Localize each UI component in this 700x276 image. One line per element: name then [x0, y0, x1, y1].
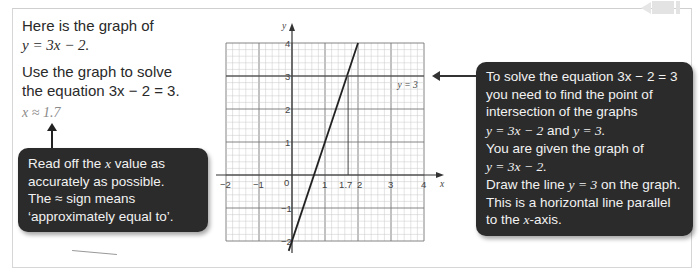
- intro-line4: the equation: [22, 82, 109, 99]
- hint-callout-right: To solve the equation 3x − 2 = 3 you nee…: [476, 62, 693, 236]
- arrow-up-icon: [51, 127, 53, 149]
- intro-line3: Use the graph to solve: [22, 63, 172, 80]
- y-tick-label: 2: [285, 104, 290, 115]
- y-tick-label: −1: [281, 203, 292, 214]
- x-axis-label: x: [439, 179, 445, 189]
- x-tick-label: 2: [357, 179, 362, 190]
- hint-callout-left: Read off the x value as accurately as po…: [18, 148, 208, 232]
- callout-equation: y = 3.: [573, 123, 605, 138]
- y-tick-label: 1: [285, 137, 290, 148]
- line-graph: xy−2−101234−2−11234y = 31.7: [200, 20, 450, 270]
- intro-equation-2: 3x − 2 = 3.: [109, 82, 180, 99]
- callout-text: The ≈ sign means: [28, 191, 135, 206]
- x-reading-label: 1.7: [339, 179, 352, 190]
- callout-text: value as: [111, 156, 165, 171]
- y-axis-label: y: [281, 21, 287, 31]
- y-equals-3-label: y = 3: [397, 80, 418, 90]
- callout-text: accurately as possible.: [28, 174, 165, 189]
- callout-text: -axis.: [530, 212, 562, 227]
- callout-equation: y = 3: [569, 177, 598, 192]
- callout-equation: 3x − 2 = 3: [617, 69, 677, 84]
- y-axis-arrow-icon: [289, 23, 295, 31]
- x-tick-label: 1: [322, 179, 327, 190]
- x-axis-arrow-icon: [436, 172, 444, 178]
- question-text: Here is the graph of y = 3x − 2. Use the…: [22, 16, 212, 107]
- y-tick-label: 4: [285, 38, 290, 49]
- callout-text: Read off the: [28, 156, 105, 171]
- callout-text: you need to find the point of intersecti…: [486, 87, 653, 120]
- intro-line1: Here is the graph of: [22, 17, 154, 34]
- x-tick-label: 3: [388, 179, 393, 190]
- handwritten-answer: x ≈ 1.7: [22, 105, 60, 121]
- callout-text: You are given the graph of: [486, 141, 644, 156]
- x-tick-label: −1: [253, 179, 264, 190]
- callout-text: and: [543, 123, 573, 138]
- x-tick-label: 4: [421, 179, 426, 190]
- tab-decoration-icon: [641, 1, 681, 15]
- x-tick-label: 0: [284, 177, 289, 188]
- x-tick-label: −2: [220, 179, 231, 190]
- callout-equation: y = 3x − 2: [486, 123, 543, 138]
- callout-text: ‘approximately equal to’.: [28, 209, 174, 224]
- callout-text: To solve the equation: [486, 69, 617, 84]
- callout-equation: y = 3x − 2.: [486, 159, 547, 174]
- callout-text: Draw the line: [486, 177, 569, 192]
- intro-equation: y = 3x − 2.: [22, 37, 89, 53]
